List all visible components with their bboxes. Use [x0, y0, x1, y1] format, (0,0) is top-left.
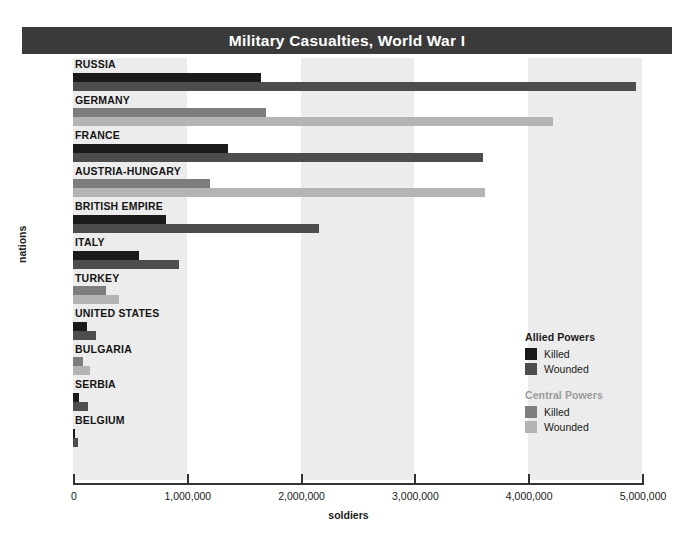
bar-row-label: TURKEY	[75, 272, 119, 284]
bar-wounded	[73, 188, 485, 197]
bar-row-label: BULGARIA	[75, 343, 132, 355]
bar-row: FRANCE	[73, 129, 642, 165]
legend-label: Wounded	[544, 363, 589, 375]
legend-label: Killed	[544, 348, 570, 360]
bar-wounded	[73, 117, 553, 126]
chart-legend: Allied Powers Killed Wounded Central Pow…	[525, 331, 655, 447]
bar-row: TURKEY	[73, 272, 642, 308]
legend-swatch-icon	[525, 406, 537, 418]
bar-wounded	[73, 402, 88, 411]
bar-killed	[73, 179, 210, 188]
bar-wounded	[73, 366, 90, 375]
bar-killed	[73, 108, 266, 117]
bar-killed	[73, 73, 261, 82]
bar-wounded	[73, 153, 483, 162]
bar-row-label: UNITED STATES	[75, 307, 159, 319]
legend-swatch-icon	[525, 363, 537, 375]
x-axis-title: soldiers	[0, 509, 697, 521]
bar-killed	[73, 429, 75, 438]
bar-killed	[73, 357, 83, 366]
bar-row-label: ITALY	[75, 236, 105, 248]
bar-wounded	[73, 438, 78, 447]
x-axis-line	[73, 483, 642, 485]
bar-row-label: GERMANY	[75, 94, 130, 106]
x-axis-tick-label: 3,000,000	[392, 490, 439, 502]
x-axis-tick-label: 5,000,000	[620, 490, 667, 502]
bar-wounded	[73, 295, 119, 304]
bar-row-label: BELGIUM	[75, 414, 125, 426]
bar-wounded	[73, 331, 96, 340]
bar-row: ITALY	[73, 236, 642, 272]
legend-label: Wounded	[544, 421, 589, 433]
x-axis-tick	[73, 474, 75, 485]
bar-killed	[73, 286, 106, 295]
bar-row: AUSTRIA-HUNGARY	[73, 165, 642, 201]
legend-item-central-killed: Killed	[525, 406, 655, 418]
legend-swatch-icon	[525, 348, 537, 360]
bar-killed	[73, 144, 228, 153]
legend-label: Killed	[544, 406, 570, 418]
x-axis-tick	[187, 474, 189, 485]
bar-killed	[73, 393, 79, 402]
x-axis-tick	[414, 474, 416, 485]
bar-killed	[73, 322, 87, 331]
legend-heading-central: Central Powers	[525, 389, 655, 401]
legend-heading-allied: Allied Powers	[525, 331, 655, 343]
bar-row: GERMANY	[73, 94, 642, 130]
bar-row-label: BRITISH EMPIRE	[75, 200, 163, 212]
bar-row-label: FRANCE	[75, 129, 120, 141]
bar-row-label: RUSSIA	[75, 58, 116, 70]
chart-figure: Military Casualties, World War I RUSSIAG…	[0, 0, 697, 550]
bar-wounded	[73, 82, 636, 91]
bar-row: BRITISH EMPIRE	[73, 200, 642, 236]
page-title: Military Casualties, World War I	[229, 32, 465, 50]
x-axis-tick-label: 0	[71, 490, 77, 502]
x-axis-tick	[642, 474, 644, 485]
bar-wounded	[73, 260, 179, 269]
x-axis-tick-label: 2,000,000	[278, 490, 325, 502]
legend-item-allied-killed: Killed	[525, 348, 655, 360]
bar-wounded	[73, 224, 319, 233]
legend-item-allied-wounded: Wounded	[525, 363, 655, 375]
legend-group-central: Central Powers Killed Wounded	[525, 389, 655, 433]
bar-killed	[73, 251, 139, 260]
legend-item-central-wounded: Wounded	[525, 421, 655, 433]
x-axis-tick-label: 4,000,000	[506, 490, 553, 502]
bar-killed	[73, 215, 166, 224]
bar-row: RUSSIA	[73, 58, 642, 94]
y-axis-title: nations	[16, 226, 28, 263]
chart-title-bar: Military Casualties, World War I	[22, 27, 672, 54]
x-axis-tick	[301, 474, 303, 485]
legend-swatch-icon	[525, 421, 537, 433]
x-axis-tick-label: 1,000,000	[164, 490, 211, 502]
x-axis-tick	[528, 474, 530, 485]
legend-group-allied: Allied Powers Killed Wounded	[525, 331, 655, 375]
bar-row-label: SERBIA	[75, 378, 116, 390]
bar-row-label: AUSTRIA-HUNGARY	[75, 165, 181, 177]
